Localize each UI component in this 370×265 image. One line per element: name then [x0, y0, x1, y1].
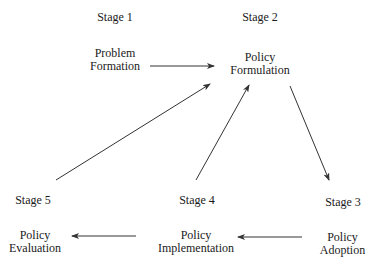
node-label-line2: Implementation [148, 242, 244, 255]
node-label-line2: Formulation [220, 64, 300, 77]
diagram-edges [0, 0, 370, 265]
edge-s2-s3 [290, 86, 329, 180]
edge-s5-s2 [56, 84, 210, 180]
node-policy-evaluation: Policy Evaluation [5, 229, 65, 255]
node-label-line2: Evaluation [5, 242, 65, 255]
node-policy-formulation: Policy Formulation [220, 51, 300, 77]
node-problem-formation: Problem Formation [80, 47, 150, 73]
stage-2-label: Stage 2 [235, 11, 285, 24]
node-label-line2: Adoption [315, 244, 370, 257]
stage-3-label: Stage 3 [318, 196, 368, 209]
stage-1-label: Stage 1 [90, 11, 140, 24]
stage-4-label: Stage 4 [172, 194, 222, 207]
node-label-line2: Formation [80, 60, 150, 73]
stage-5-label: Stage 5 [8, 194, 58, 207]
node-policy-adoption: Policy Adoption [315, 231, 370, 257]
edge-s4-s2 [196, 85, 249, 180]
node-policy-implementation: Policy Implementation [148, 229, 244, 255]
